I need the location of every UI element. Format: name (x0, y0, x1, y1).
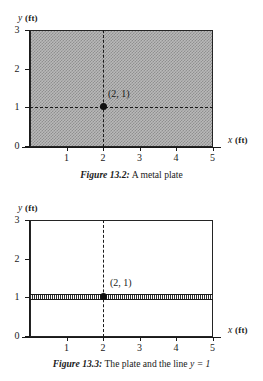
x-tick-label-1: 1 (60, 152, 74, 163)
point-marker-2-1 (100, 103, 107, 110)
y-tick-1 (25, 297, 30, 298)
y-axis-label: y (ft) (18, 13, 38, 23)
y-tick-label-0: 0 (10, 330, 24, 341)
y-tick-3 (25, 30, 30, 31)
x-tick-4 (176, 147, 177, 151)
y-tick-2 (25, 259, 30, 260)
figure-number-13-3: Figure 13.3: (53, 358, 103, 369)
y-axis-label: y (ft) (18, 203, 38, 213)
plot-area-13-2: y (ft) x (ft) (2, 1) 3 2 1 0 1 2 3 4 5 (0, 0, 263, 168)
x-tick-label-3: 3 (133, 152, 147, 163)
x-axis-symbol: x (228, 325, 232, 335)
line-x-equals-2 (103, 30, 104, 147)
x-tick-label-2: 2 (96, 342, 110, 353)
line-x-equals-2 (103, 220, 104, 337)
y-tick-0 (25, 146, 30, 147)
x-tick-label-1: 1 (60, 342, 74, 353)
y-tick-label-0: 0 (10, 140, 24, 151)
y-axis-unit: (ft) (25, 203, 38, 213)
x-tick-label-3: 3 (133, 342, 147, 353)
x-tick-label-4: 4 (169, 342, 183, 353)
x-tick-1 (67, 147, 68, 151)
x-tick-label-2: 2 (96, 152, 110, 163)
y-tick-label-3: 3 (10, 214, 24, 225)
x-tick-label-5: 5 (206, 342, 220, 353)
x-axis-label: x (ft) (228, 325, 248, 335)
y-tick-1 (25, 107, 30, 108)
y-tick-label-2: 2 (10, 253, 24, 264)
x-tick-2 (103, 147, 104, 151)
y-tick-3 (25, 220, 30, 221)
y-axis-line (29, 30, 30, 147)
x-tick-1 (67, 337, 68, 341)
y-tick-label-2: 2 (10, 63, 24, 74)
y-tick-label-1: 1 (10, 101, 24, 112)
x-axis-unit: (ft) (235, 135, 248, 145)
line-y-equals-1 (30, 107, 213, 108)
y-axis-symbol: y (18, 13, 22, 23)
plot-area-13-3: y (ft) x (ft) (2, 1) 3 2 1 0 1 2 3 4 5 (0, 190, 263, 358)
x-tick-5 (213, 337, 214, 341)
figure-caption-13-3: Figure 13.3: The plate and the line y = … (0, 358, 263, 369)
x-tick-3 (140, 147, 141, 151)
figure-caption-text-13-2: A metal plate (132, 169, 183, 180)
y-tick-0 (25, 336, 30, 337)
y-axis-symbol: y (18, 203, 22, 213)
figure-caption-equation-13-3: y = 1 (190, 358, 210, 369)
point-label-2-1: (2, 1) (108, 88, 130, 99)
y-tick-label-3: 3 (10, 24, 24, 35)
x-axis-unit: (ft) (235, 325, 248, 335)
figure-13-2: y (ft) x (ft) (2, 1) 3 2 1 0 1 2 3 4 5 (0, 0, 263, 190)
x-axis-symbol: x (228, 135, 232, 145)
x-axis-line (22, 337, 221, 338)
y-axis-line (29, 220, 30, 337)
x-tick-5 (213, 147, 214, 151)
point-label-2-1: (2, 1) (110, 277, 132, 288)
line-y-equals-1 (30, 294, 213, 300)
y-tick-2 (25, 69, 30, 70)
figure-caption-text-13-3: The plate and the line (104, 358, 187, 369)
x-tick-3 (140, 337, 141, 341)
x-tick-label-4: 4 (169, 152, 183, 163)
x-tick-label-5: 5 (206, 152, 220, 163)
x-axis-label: x (ft) (228, 135, 248, 145)
figure-13-3: y (ft) x (ft) (2, 1) 3 2 1 0 1 2 3 4 5 (0, 190, 263, 381)
y-axis-unit: (ft) (25, 13, 38, 23)
point-marker-2-1 (100, 293, 107, 300)
figure-number-13-2: Figure 13.2: (80, 169, 130, 180)
x-axis-line (22, 147, 221, 148)
x-tick-4 (176, 337, 177, 341)
x-tick-2 (103, 337, 104, 341)
figure-caption-13-2: Figure 13.2: A metal plate (0, 169, 263, 180)
y-tick-label-1: 1 (10, 291, 24, 302)
